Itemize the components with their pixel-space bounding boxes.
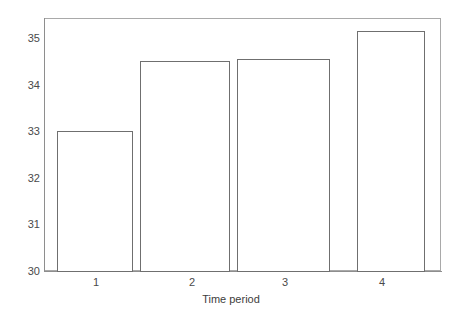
x-axis-tick-label: 3 [282,277,288,288]
x-axis-tick-label: 2 [189,277,195,288]
x-axis-tick-label: 1 [93,277,99,288]
y-axis-tick-label: 33 [6,126,40,137]
bar [357,31,425,272]
x-axis-title: Time period [0,294,462,305]
y-axis-tick-label: 31 [6,219,40,230]
x-axis-tick-label: 4 [379,277,385,288]
y-axis-tick-label: 32 [6,172,40,183]
y-axis-tick-label: 35 [6,33,40,44]
bar [237,59,330,272]
bar-chart: 303132333435 1234 Time period [0,0,462,317]
y-axis-tick-labels: 303132333435 [0,0,40,317]
y-axis-line [44,18,45,272]
bar [57,131,133,272]
y-axis-tick-label: 30 [6,266,40,277]
y-axis-tick-label: 34 [6,79,40,90]
bar [140,61,230,272]
